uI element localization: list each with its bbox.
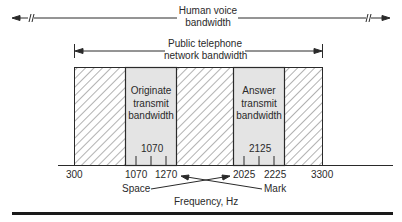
tick-label-1270: 1270 <box>155 169 177 181</box>
mark-label: Mark <box>264 183 286 195</box>
answer-center-frequency: 2125 <box>247 143 273 155</box>
human-voice-line2: bandwidth <box>177 17 239 29</box>
bottom-rule <box>12 212 393 215</box>
human-voice-label: Human voice bandwidth <box>177 5 239 29</box>
guard-band-low <box>75 68 126 166</box>
guard-band-mid <box>177 68 234 166</box>
originate-line2: transmit <box>126 98 176 111</box>
guard-band-high <box>285 68 323 166</box>
public-network-label: Public telephone network bandwidth <box>164 38 246 62</box>
originate-label: Originate transmit bandwidth <box>126 85 176 123</box>
band-blocks <box>75 68 323 166</box>
originate-line3: bandwidth <box>126 110 176 123</box>
public-network-line1: Public telephone <box>164 38 246 50</box>
axis-label: Frequency, Hz <box>174 196 238 208</box>
originate-center-frequency: 1070 <box>139 143 165 155</box>
tick-label-300: 300 <box>66 169 83 181</box>
answer-line1: Answer <box>234 85 284 98</box>
frequency-band-diagram <box>0 0 402 222</box>
tick-label-1070: 1070 <box>125 169 147 181</box>
human-voice-line1: Human voice <box>177 5 239 17</box>
space-label: Space <box>122 183 150 195</box>
tick-label-2025: 2025 <box>233 169 255 181</box>
answer-line2: transmit <box>234 98 284 111</box>
tick-label-2225: 2225 <box>264 169 286 181</box>
originate-line1: Originate <box>126 85 176 98</box>
public-network-line2: network bandwidth <box>164 50 246 62</box>
tick-label-3300: 3300 <box>311 169 333 181</box>
answer-label: Answer transmit bandwidth <box>234 85 284 123</box>
answer-line3: bandwidth <box>234 110 284 123</box>
